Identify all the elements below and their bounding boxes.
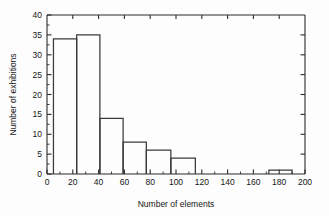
histogram-bar [269, 170, 292, 174]
y-axis-major-ticks [47, 15, 52, 174]
x-tick-label: 160 [246, 177, 260, 187]
x-tick-label: 120 [195, 177, 209, 187]
x-tick-label: 140 [221, 177, 235, 187]
x-tick-label: 100 [169, 177, 183, 187]
y-tick-label: 15 [33, 109, 43, 119]
x-tick-label: 0 [45, 177, 50, 187]
y-axis-title: Number of exhibitions [8, 53, 18, 135]
x-tick-label: 20 [68, 177, 78, 187]
x-tick-label: 40 [94, 177, 104, 187]
histogram-bars [53, 35, 292, 174]
x-axis-top-ticks [73, 15, 279, 19]
y-tick-label: 30 [33, 50, 43, 60]
y-tick-label: 25 [33, 70, 43, 80]
plot-frame [47, 15, 305, 174]
histogram-bar [100, 118, 123, 174]
y-axis-right-ticks [301, 35, 306, 154]
chart-canvas: 0 20 40 60 80 100 120 140 160 180 200 0 … [0, 0, 329, 216]
histogram-bar [77, 35, 100, 174]
x-axis-title: Number of elements [138, 199, 215, 209]
y-tick-label: 40 [33, 10, 43, 20]
x-tick-label: 60 [120, 177, 130, 187]
y-tick-label: 20 [33, 90, 43, 100]
x-tick-labels: 0 20 40 60 80 100 120 140 160 180 200 [45, 177, 313, 187]
histogram-bar [123, 142, 146, 174]
y-tick-label: 5 [37, 149, 42, 159]
y-tick-label: 0 [37, 169, 42, 179]
x-tick-label: 180 [272, 177, 286, 187]
y-tick-label: 10 [33, 129, 43, 139]
y-tick-labels: 0 5 10 15 20 25 30 35 40 [33, 10, 43, 179]
x-tick-label: 80 [145, 177, 155, 187]
x-tick-label: 200 [298, 177, 312, 187]
histogram-bar [171, 158, 196, 174]
y-tick-label: 35 [33, 30, 43, 40]
histogram-bar [53, 39, 76, 174]
histogram-figure: 0 20 40 60 80 100 120 140 160 180 200 0 … [0, 0, 329, 216]
